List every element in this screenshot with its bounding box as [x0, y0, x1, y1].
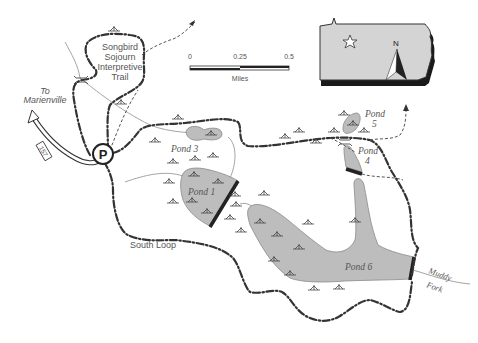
- svg-text:Pond: Pond: [364, 109, 385, 119]
- svg-text:Fork: Fork: [424, 279, 444, 294]
- pond-6-shape: [248, 179, 414, 282]
- pond-6-label: Pond 6: [344, 262, 372, 272]
- pond-3-label: Pond 3: [170, 144, 198, 154]
- scale-tick-0: 0: [188, 53, 192, 60]
- ponds: [181, 113, 414, 282]
- songbird-trail-label: Songbird Sojourn Interpretive Trail: [97, 42, 142, 82]
- parking-label: P: [99, 147, 108, 162]
- muddy-fork-label: Muddy Fork: [424, 265, 453, 294]
- north-label: N: [393, 39, 399, 48]
- svg-text:5: 5: [372, 119, 377, 129]
- trail-exit-arrow-icon: [403, 104, 409, 111]
- svg-text:Marienville: Marienville: [23, 95, 66, 105]
- to-marienville-label: To Marienville: [23, 86, 66, 105]
- scale-tick-025: 0.25: [233, 53, 247, 60]
- route-shield: 157: [36, 141, 52, 161]
- pond-3-shape: [186, 126, 222, 140]
- svg-text:Sojourn: Sojourn: [104, 52, 135, 62]
- inset-map: N: [320, 18, 435, 86]
- pond-4-label: Pond 4: [357, 146, 378, 166]
- svg-text:4: 4: [365, 156, 370, 166]
- svg-text:Songbird: Songbird: [102, 42, 138, 52]
- scale-tick-05: 0.5: [284, 53, 294, 60]
- pond-5-shape: [343, 113, 360, 133]
- pond-5-label: Pond 5: [364, 109, 385, 129]
- pennsylvania-outline: [320, 18, 432, 80]
- svg-text:Pond: Pond: [357, 146, 378, 156]
- scale-bar: 0 0.25 0.5 Miles: [188, 53, 294, 82]
- trail-map: 157 P: [0, 0, 478, 343]
- scale-unit: Miles: [232, 75, 249, 82]
- svg-text:Interpretive: Interpretive: [97, 62, 142, 72]
- pond-1-label: Pond 1: [187, 187, 215, 197]
- svg-text:Trail: Trail: [111, 72, 128, 82]
- parking-marker[interactable]: P: [93, 144, 113, 164]
- south-loop-label: South Loop: [130, 240, 176, 250]
